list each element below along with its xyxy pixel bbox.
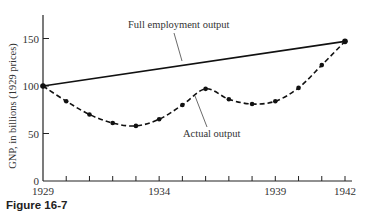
series-layer xyxy=(40,39,348,129)
x-tick-label: 1942 xyxy=(334,185,356,197)
data-point xyxy=(180,103,185,108)
data-point xyxy=(319,63,324,68)
end-point xyxy=(342,39,348,45)
annotation-pointer xyxy=(174,33,182,61)
x-tick-label: 1929 xyxy=(32,185,55,197)
x-tick-label: 1934 xyxy=(148,185,171,197)
annotation-actual-output: Actual output xyxy=(183,128,241,139)
y-tick-label: 100 xyxy=(23,80,40,92)
data-point xyxy=(157,117,162,122)
data-point xyxy=(134,124,139,129)
figure-caption: Figure 16-7 xyxy=(6,199,67,211)
data-point xyxy=(273,99,278,104)
data-point xyxy=(203,87,208,92)
gnp-line-chart: 0501001501929193419391942GNP, in billion… xyxy=(0,0,370,200)
y-tick-label: 150 xyxy=(23,33,40,45)
annotations: Full employment outputActual output xyxy=(128,19,241,139)
y-axis-label: GNP, in billions (1929 prices) xyxy=(7,43,19,169)
data-point xyxy=(64,99,69,104)
data-point xyxy=(250,102,255,107)
data-point xyxy=(87,112,92,117)
start-point xyxy=(40,83,46,89)
y-tick-label: 50 xyxy=(28,128,40,140)
data-point xyxy=(110,121,115,126)
data-point xyxy=(227,97,232,102)
full-employment-line xyxy=(43,41,345,86)
annotation-pointer xyxy=(195,96,207,127)
x-tick-label: 1939 xyxy=(264,185,287,197)
annotation-full-employment: Full employment output xyxy=(128,19,230,30)
data-point xyxy=(296,86,301,91)
